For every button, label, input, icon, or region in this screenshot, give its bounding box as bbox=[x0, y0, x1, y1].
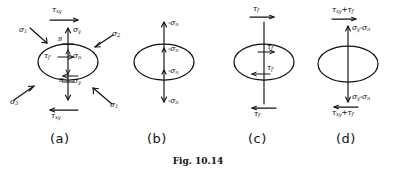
panel-a-principal-3-label: σ3 bbox=[10, 98, 18, 106]
panel-b-top-outer-label: -σn bbox=[168, 19, 178, 27]
panel-a-principal-1-lower-label: σ1 bbox=[110, 101, 118, 109]
figure-10-14: τxy σy B τf σn B' σy τxy σ1 σ2 σ3 σ1 (a) bbox=[0, 0, 396, 180]
panel-a-bottom-normal-label: σy bbox=[73, 77, 81, 85]
panel-b-bottom-outer-label: -σn bbox=[168, 97, 178, 105]
panel-a-caption: (a) bbox=[50, 131, 70, 146]
panel-d-bottom-shear-sum-label: τxy+τf bbox=[332, 109, 353, 117]
panel-a-drawing bbox=[0, 0, 130, 132]
panel-a-bottom-shear-label: τxy bbox=[51, 112, 60, 120]
panel-c-top-outer-label: τf bbox=[253, 5, 259, 13]
panel-b: -σn -σn -σn -σn (b) bbox=[120, 0, 215, 132]
panel-c-top-inner-label: τf bbox=[267, 43, 273, 51]
panel-b-top-inner-label: -σn bbox=[168, 45, 178, 53]
panel-a: τxy σy B τf σn B' σy τxy σ1 σ2 σ3 σ1 (a) bbox=[0, 0, 130, 132]
panel-c-caption: (c) bbox=[248, 131, 267, 146]
panel-a-inner-normal-label: σn bbox=[73, 52, 81, 60]
panel-d-top-shear-sum-label: τxy+τf bbox=[332, 6, 353, 14]
panel-a-inner-shear-label: τf bbox=[44, 52, 50, 60]
panel-d-top-normal-diff-label: σy-σn bbox=[352, 24, 370, 32]
panel-b-caption: (b) bbox=[147, 131, 167, 146]
panel-a-top-shear-label: τxy bbox=[52, 6, 61, 14]
panel-a-point-b: B bbox=[58, 37, 62, 43]
panel-b-bottom-inner-label: -σn bbox=[168, 67, 178, 75]
panel-a-principal-2-label: σ2 bbox=[112, 30, 120, 38]
panel-c: τf τf τf τf (c) bbox=[222, 0, 312, 132]
panel-a-principal-1-upper-label: σ1 bbox=[19, 26, 27, 34]
panel-a-top-normal-label: σy bbox=[73, 26, 81, 34]
panel-d-bottom-normal-diff-label: σy-σn bbox=[352, 93, 370, 101]
panel-c-bottom-inner-label: τf bbox=[267, 64, 273, 72]
panel-c-bottom-outer-label: τf bbox=[254, 110, 260, 118]
panel-d-caption: (d) bbox=[336, 131, 356, 146]
panel-d: τxy+τf σy-σn σy-σn τxy+τf (d) bbox=[308, 0, 396, 132]
panel-a-point-b-prime: B' bbox=[59, 78, 65, 84]
figure-caption: Fig. 10.14 bbox=[0, 156, 396, 166]
